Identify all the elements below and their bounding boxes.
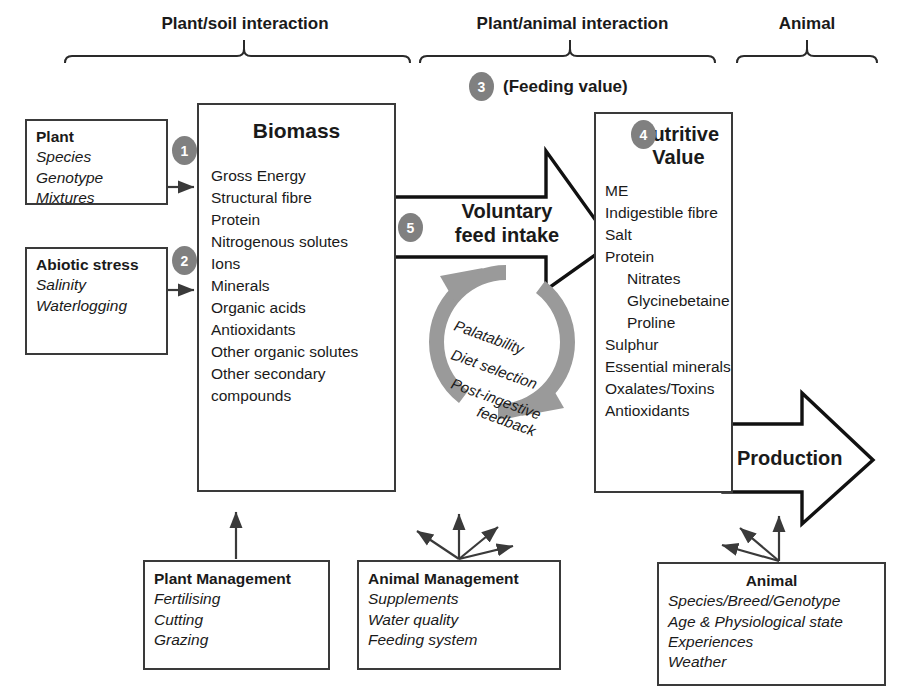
feeding-value-label: (Feeding value) bbox=[503, 77, 628, 97]
animal-management-item: Water quality bbox=[368, 610, 559, 630]
group-label-animal: Animal bbox=[757, 14, 857, 34]
nutritive-item: Oxalates/Toxins bbox=[605, 378, 731, 400]
biomass-item: Antioxidants bbox=[211, 319, 358, 341]
animal-box-item: Species/Breed/Genotype bbox=[668, 591, 884, 611]
nutritive-item: Sulphur bbox=[605, 334, 731, 356]
animal-box-item: Age & Physiological state bbox=[668, 612, 884, 632]
biomass-item: Structural fibre bbox=[211, 187, 358, 209]
biomass-item: Minerals bbox=[211, 275, 358, 297]
plant-box-item: Mixtures bbox=[36, 188, 166, 208]
nutritive-item: ME bbox=[605, 180, 731, 202]
brace-animal bbox=[737, 40, 877, 63]
biomass-item: Other secondary bbox=[211, 363, 358, 385]
nutritive-item: Glycinebetaine bbox=[605, 290, 731, 312]
nutritive-item: Indigestible fibre bbox=[605, 202, 731, 224]
plant-management-item: Cutting bbox=[154, 610, 328, 630]
animal-box-item: Experiences bbox=[668, 632, 884, 652]
badge-1: 1 bbox=[172, 136, 197, 165]
brace-plant-animal bbox=[420, 40, 715, 63]
nutritive-item: Salt bbox=[605, 224, 731, 246]
biomass-item: Ions bbox=[211, 253, 358, 275]
animal-box: Animal Species/Breed/Genotype Age & Phys… bbox=[657, 562, 886, 686]
nutritive-item: Protein bbox=[605, 246, 731, 268]
voluntary-feed-intake-line1: Voluntary bbox=[432, 199, 582, 223]
production-label: Production bbox=[737, 447, 843, 470]
animal-management-box-title: Animal Management bbox=[368, 569, 559, 588]
biomass-box-title: Biomass bbox=[199, 119, 394, 143]
brace-plant-soil bbox=[65, 40, 410, 63]
animal-box-title: Animal bbox=[659, 571, 884, 590]
biomass-item: Protein bbox=[211, 209, 358, 231]
abiotic-stress-box-item: Waterlogging bbox=[36, 296, 166, 316]
group-label-plant-soil: Plant/soil interaction bbox=[150, 14, 340, 34]
plant-management-item: Fertilising bbox=[154, 589, 328, 609]
biomass-item: Gross Energy bbox=[211, 165, 358, 187]
group-label-plant-animal: Plant/animal interaction bbox=[465, 14, 680, 34]
nutritive-value-box: Nutritive Value ME Indigestible fibre Sa… bbox=[594, 112, 733, 493]
badge-5: 5 bbox=[398, 213, 423, 242]
nutritive-value-title-line2: Value bbox=[652, 146, 704, 168]
badge-2: 2 bbox=[172, 246, 197, 275]
animal-management-box: Animal Management Supplements Water qual… bbox=[357, 560, 561, 670]
plant-management-box-title: Plant Management bbox=[154, 569, 328, 588]
animal-management-item: Feeding system bbox=[368, 630, 559, 650]
biomass-item: compounds bbox=[211, 385, 358, 407]
nutritive-item: Antioxidants bbox=[605, 400, 731, 422]
nutritive-item: Nitrates bbox=[605, 268, 731, 290]
plant-box-item: Species bbox=[36, 147, 166, 167]
abiotic-stress-box-title: Abiotic stress bbox=[36, 255, 166, 274]
voluntary-feed-intake-line2: feed intake bbox=[432, 223, 582, 247]
plant-management-item: Grazing bbox=[154, 630, 328, 650]
plant-box-title: Plant bbox=[36, 127, 166, 146]
arrow-fan-animal-management bbox=[417, 514, 513, 559]
biomass-box: Biomass Gross Energy Structural fibre Pr… bbox=[197, 103, 396, 492]
biomass-item: Organic acids bbox=[211, 297, 358, 319]
badge-4: 4 bbox=[631, 120, 656, 149]
nutritive-item: Proline bbox=[605, 312, 731, 334]
abiotic-stress-box: Abiotic stress Salinity Waterlogging bbox=[25, 247, 168, 355]
voluntary-feed-intake-label: Voluntary feed intake bbox=[432, 199, 582, 248]
plant-management-box: Plant Management Fertilising Cutting Gra… bbox=[143, 560, 330, 670]
abiotic-stress-box-item: Salinity bbox=[36, 275, 166, 295]
biomass-item: Other organic solutes bbox=[211, 341, 358, 363]
arrow-fan-animal-box bbox=[722, 516, 779, 561]
biomass-item: Nitrogenous solutes bbox=[211, 231, 358, 253]
animal-management-item: Supplements bbox=[368, 589, 559, 609]
nutritive-item: Essential minerals bbox=[605, 356, 731, 378]
plant-box: Plant Species Genotype Mixtures bbox=[25, 119, 168, 205]
diagram-canvas: Plant/soil interaction Plant/animal inte… bbox=[0, 0, 904, 697]
animal-box-item: Weather bbox=[668, 652, 884, 672]
badge-3: 3 bbox=[469, 72, 494, 101]
plant-box-item: Genotype bbox=[36, 168, 166, 188]
